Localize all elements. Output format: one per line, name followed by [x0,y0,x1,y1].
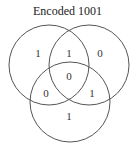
region-center: 0 [66,70,72,82]
region-bottom-only: 1 [66,110,72,122]
region-right-bottom: 1 [89,87,95,99]
region-left-only: 1 [35,47,41,59]
region-left-bottom: 0 [43,87,49,99]
region-left-right: 1 [66,47,72,59]
venn-diagram: 1 1 0 0 0 1 1 [0,0,135,148]
region-right-only: 0 [97,47,103,59]
